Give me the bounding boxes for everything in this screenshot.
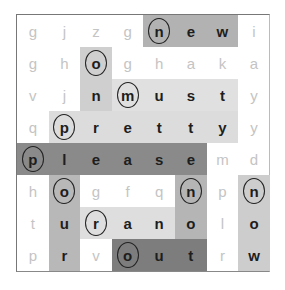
grid-cell[interactable]: e [175, 143, 207, 175]
grid-cell[interactable]: l [49, 143, 81, 175]
grid-cell[interactable]: m [207, 143, 239, 175]
cell-letter: h [29, 183, 37, 200]
grid-cell[interactable]: a [238, 47, 270, 79]
grid-cell[interactable]: f [112, 175, 144, 207]
grid-cell[interactable]: u [143, 79, 175, 111]
grid-cell[interactable]: y [207, 111, 239, 143]
cell-letter: l [221, 215, 224, 232]
grid-cell[interactable]: r [207, 239, 239, 271]
grid-cell[interactable]: m [112, 79, 144, 111]
grid-cell[interactable]: l [207, 207, 239, 239]
grid-cell[interactable]: p [17, 143, 49, 175]
grid-cell[interactable]: a [112, 143, 144, 175]
grid-cell[interactable]: h [49, 47, 81, 79]
cell-letter: p [60, 119, 69, 136]
cell-letter: t [188, 247, 193, 264]
grid-cell[interactable]: v [17, 79, 49, 111]
cell-letter: n [155, 215, 164, 232]
grid-cell[interactable]: r [80, 111, 112, 143]
grid-cell[interactable]: a [112, 207, 144, 239]
grid-cell[interactable]: n [143, 15, 175, 47]
grid-cell[interactable]: o [238, 207, 270, 239]
grid-cell[interactable]: z [80, 15, 112, 47]
grid-cell[interactable]: s [143, 143, 175, 175]
grid-cell[interactable]: e [112, 111, 144, 143]
cell-letter: p [29, 247, 37, 264]
cell-letter: l [62, 151, 66, 168]
grid-cell[interactable]: a [175, 47, 207, 79]
cell-letter: f [126, 183, 130, 200]
cell-letter: t [188, 119, 193, 136]
cell-letter: n [186, 183, 195, 200]
grid-cell[interactable]: i [238, 15, 270, 47]
grid-cell[interactable]: n [175, 175, 207, 207]
cell-letter: a [187, 55, 195, 72]
cell-letter: y [250, 119, 258, 136]
grid-cell[interactable]: g [112, 47, 144, 79]
grid-cell[interactable]: q [17, 111, 49, 143]
cell-letter: t [220, 87, 225, 104]
grid-cell[interactable]: y [238, 111, 270, 143]
cell-letter: o [91, 55, 100, 72]
grid-cell[interactable]: o [112, 239, 144, 271]
grid-cell[interactable]: e [80, 143, 112, 175]
grid-cell[interactable]: g [112, 15, 144, 47]
grid-cell[interactable]: j [49, 15, 81, 47]
grid-cell[interactable]: t [175, 111, 207, 143]
grid-cell[interactable]: w [207, 15, 239, 47]
grid-cell[interactable]: r [49, 239, 81, 271]
cell-letter: u [155, 247, 164, 264]
cell-letter: a [123, 215, 131, 232]
grid-cell[interactable]: n [143, 207, 175, 239]
cell-letter: r [220, 247, 225, 264]
grid-cell[interactable]: t [143, 111, 175, 143]
cell-letter: k [219, 55, 227, 72]
cell-letter: w [248, 247, 260, 264]
cell-letter: t [31, 215, 35, 232]
cell-letter: a [250, 55, 258, 72]
grid-cell[interactable]: n [80, 79, 112, 111]
cell-letter: e [92, 151, 100, 168]
grid-cell[interactable]: h [143, 47, 175, 79]
cell-letter: m [121, 87, 134, 104]
grid-cell[interactable]: w [238, 239, 270, 271]
grid-cell[interactable]: r [80, 207, 112, 239]
cell-letter: v [29, 87, 37, 104]
cell-letter: g [29, 55, 37, 72]
grid-cell[interactable]: s [175, 79, 207, 111]
grid-cell[interactable]: t [207, 79, 239, 111]
grid-cell[interactable]: g [17, 47, 49, 79]
cell-letter: g [123, 23, 131, 40]
grid-cell[interactable]: p [17, 239, 49, 271]
grid-cell[interactable]: n [238, 175, 270, 207]
cell-letter: u [60, 215, 69, 232]
grid-cell[interactable]: o [175, 207, 207, 239]
grid-cell[interactable]: p [207, 175, 239, 207]
cell-letter: h [155, 55, 163, 72]
cell-letter: z [92, 23, 100, 40]
grid-cell[interactable]: j [49, 79, 81, 111]
grid-cell[interactable]: q [143, 175, 175, 207]
grid-cell[interactable]: y [238, 79, 270, 111]
cell-letter: p [218, 183, 226, 200]
grid-cell[interactable]: v [80, 239, 112, 271]
grid-cell[interactable]: o [49, 175, 81, 207]
grid-cell[interactable]: d [238, 143, 270, 175]
grid-cell[interactable]: u [143, 239, 175, 271]
grid-cell[interactable]: g [17, 15, 49, 47]
grid-cell[interactable]: k [207, 47, 239, 79]
cell-letter: j [63, 87, 66, 104]
cell-letter: i [252, 23, 255, 40]
cell-letter: o [123, 247, 132, 264]
grid-cell[interactable]: u [49, 207, 81, 239]
grid-cell[interactable]: p [49, 111, 81, 143]
grid-cell[interactable]: h [17, 175, 49, 207]
cell-letter: r [61, 247, 67, 264]
cell-letter: g [92, 183, 100, 200]
grid-cell[interactable]: t [175, 239, 207, 271]
grid-cell[interactable]: o [80, 47, 112, 79]
grid-cell[interactable]: e [175, 15, 207, 47]
grid-cell[interactable]: t [17, 207, 49, 239]
cell-letter: e [123, 119, 131, 136]
grid-cell[interactable]: g [80, 175, 112, 207]
